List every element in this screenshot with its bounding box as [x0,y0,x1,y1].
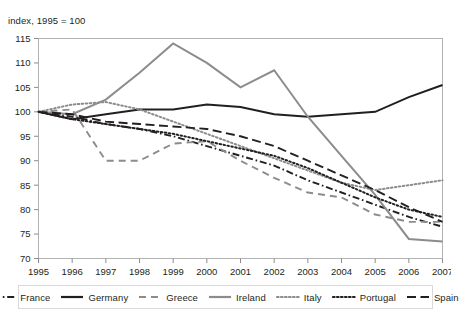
series-line-ireland [39,43,443,241]
legend-label: France [20,292,50,303]
x-axis-tick-label: 1998 [129,266,150,277]
legend-swatch-france-icon [0,292,16,302]
chart-legend: FranceGermanyGreeceIrelandItalyPortugalS… [0,286,451,308]
x-axis-tick-label: 2001 [230,266,251,277]
legend-label: Germany [88,292,128,303]
legend-swatch-spain-icon [406,292,430,302]
y-axis-tick-label: 80 [20,204,31,215]
x-axis-tick-label: 2000 [196,266,217,277]
x-axis-tick-label: 2006 [398,266,419,277]
legend-label: Italy [304,292,322,303]
y-axis-tick-label: 105 [15,82,31,93]
legend-item-portugal[interactable]: Portugal [332,292,396,303]
legend-label: Spain [434,292,459,303]
y-axis-tick-label: 110 [15,57,30,68]
legend-swatch-ireland-icon [208,292,232,302]
legend-item-ireland[interactable]: Ireland [208,292,266,303]
legend-swatch-germany-icon [60,292,84,302]
y-axis-ticks: 707580859095100105110115 [15,33,39,264]
legend-item-france[interactable]: France [0,292,50,303]
legend-item-italy[interactable]: Italy [276,292,322,303]
y-axis-tick-label: 95 [20,131,31,142]
y-axis-tick-label: 90 [20,155,31,166]
legend-item-greece[interactable]: Greece [138,292,198,303]
x-axis-tick-label: 2005 [365,266,386,277]
x-axis-tick-label: 1997 [95,266,116,277]
legend-item-germany[interactable]: Germany [60,292,128,303]
legend-label: Ireland [236,292,266,303]
y-axis-tick-label: 100 [15,106,31,117]
y-axis-tick-label: 75 [20,228,31,239]
legend-swatch-italy-icon [276,292,300,302]
x-axis-tick-label: 2007 [432,266,451,277]
x-axis-tick-label: 1996 [62,266,83,277]
legend-label: Portugal [360,292,396,303]
x-axis-tick-label: 1995 [28,266,49,277]
x-axis-ticks: 1995199619971998199920002001200220032004… [28,259,451,277]
y-axis-tick-label: 85 [20,180,31,191]
legend-swatch-greece-icon [138,292,162,302]
series-line-france [39,112,443,227]
legend-label: Greece [166,292,198,303]
y-axis-tick-label: 70 [20,253,31,264]
data-series-group [39,43,443,241]
legend-item-spain[interactable]: Spain [406,292,459,303]
x-axis-tick-label: 2004 [331,266,352,277]
x-axis-tick-label: 1999 [163,266,184,277]
y-axis-tick-label: 115 [15,33,30,44]
x-axis-tick-label: 2003 [297,266,318,277]
legend-swatch-portugal-icon [332,292,356,302]
x-axis-tick-label: 2002 [264,266,285,277]
series-line-portugal [39,112,443,217]
